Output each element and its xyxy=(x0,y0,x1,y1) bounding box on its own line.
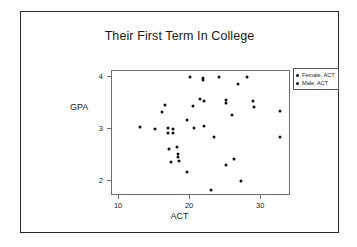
y-axis-tick-label: 2 xyxy=(87,176,103,185)
data-point xyxy=(153,127,156,130)
data-point xyxy=(253,106,256,109)
x-axis-tick xyxy=(189,195,190,199)
legend-item-label: Female, ACT xyxy=(302,71,335,79)
data-point xyxy=(176,146,179,149)
data-point xyxy=(239,179,242,182)
data-point xyxy=(237,82,240,85)
x-axis-label: ACT xyxy=(21,211,338,221)
legend-item-female[interactable]: Female, ACT xyxy=(296,71,335,79)
data-point xyxy=(202,99,205,102)
x-axis-tick xyxy=(118,195,119,199)
data-point xyxy=(217,76,220,79)
chart-title: Their First Term In College xyxy=(21,29,338,43)
scatter-points xyxy=(112,71,289,194)
data-point xyxy=(177,159,180,162)
data-point xyxy=(212,135,215,138)
legend-marker-icon xyxy=(296,74,299,77)
data-point xyxy=(191,105,194,108)
data-point xyxy=(139,125,142,128)
y-axis-tick-label: 4 xyxy=(87,72,103,81)
data-point xyxy=(169,160,172,163)
data-point xyxy=(233,158,236,161)
data-point xyxy=(186,170,189,173)
legend-marker-icon xyxy=(296,82,299,85)
x-axis-tick-label: 30 xyxy=(250,201,270,210)
legend-item-male[interactable]: Male, ACT xyxy=(296,79,335,87)
slide-frame: Their First Term In College GPA ACT 2341… xyxy=(20,11,339,233)
x-axis-tick-label: 20 xyxy=(179,201,199,210)
data-point xyxy=(225,164,228,167)
data-point xyxy=(252,100,255,103)
data-point xyxy=(167,131,170,134)
y-axis-tick-label: 3 xyxy=(87,124,103,133)
data-point xyxy=(167,127,170,130)
data-point xyxy=(245,76,248,79)
data-point xyxy=(210,189,213,192)
legend-item-label: Male, ACT xyxy=(302,79,328,87)
chart-legend: Female, ACT Male, ACT xyxy=(293,68,339,90)
data-point xyxy=(161,110,164,113)
data-point xyxy=(172,127,175,130)
data-point xyxy=(278,135,281,138)
chart-screenshot: Their First Term In College GPA ACT 2341… xyxy=(0,0,357,247)
data-point xyxy=(192,127,195,130)
data-point xyxy=(167,148,170,151)
y-axis-label: GPA xyxy=(70,102,88,112)
x-axis-tick xyxy=(260,195,261,199)
data-point xyxy=(278,110,281,113)
data-point xyxy=(224,102,227,105)
x-axis-tick-label: 10 xyxy=(108,201,128,210)
plot-area xyxy=(111,70,290,195)
data-point xyxy=(203,124,206,127)
data-point xyxy=(199,98,202,101)
data-point xyxy=(164,104,167,107)
data-point xyxy=(189,76,192,79)
data-point xyxy=(185,119,188,122)
data-point xyxy=(201,79,204,82)
data-point xyxy=(231,113,234,116)
data-point xyxy=(172,131,175,134)
